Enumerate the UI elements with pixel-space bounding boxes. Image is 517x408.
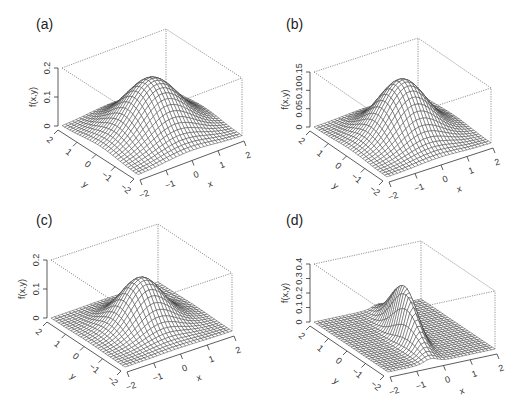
svg-text:2: 2 <box>493 157 501 168</box>
svg-text:−1: −1 <box>412 181 425 194</box>
svg-text:0.10: 0.10 <box>294 82 304 100</box>
svg-text:0.1: 0.1 <box>31 283 41 296</box>
svg-text:−2: −2 <box>119 182 133 196</box>
svg-text:−2: −2 <box>369 379 383 393</box>
svg-text:−1: −1 <box>151 371 164 384</box>
surface-plot: 00.050.100.15f(x,y)−2−1012y−2−1012x <box>259 0 517 204</box>
svg-text:−2: −2 <box>124 380 137 393</box>
svg-text:−1: −1 <box>414 379 427 392</box>
svg-text:0: 0 <box>334 355 344 366</box>
z-axis-label: f(x,y) <box>28 87 38 107</box>
svg-text:0.4: 0.4 <box>294 258 304 271</box>
panel-c: (c) 00.10.2f(x,y)−2−1012y−2−1012x <box>0 204 258 408</box>
svg-text:−1: −1 <box>87 361 101 375</box>
svg-text:0: 0 <box>71 351 81 362</box>
y-axis-label: y <box>331 376 341 387</box>
z-axis-label: f(x,y) <box>280 90 290 110</box>
svg-text:0: 0 <box>294 319 304 324</box>
svg-text:−2: −2 <box>368 184 382 198</box>
z-axis-label: f(x,y) <box>280 283 290 303</box>
svg-text:0.1: 0.1 <box>42 91 52 104</box>
svg-text:0.2: 0.2 <box>294 287 304 300</box>
x-axis-label: x <box>458 385 466 396</box>
svg-text:−2: −2 <box>106 374 120 388</box>
z-axis-label: f(x,y) <box>17 279 27 299</box>
svg-text:2: 2 <box>234 345 242 356</box>
svg-text:0: 0 <box>192 169 200 180</box>
svg-text:0.05: 0.05 <box>294 100 304 118</box>
svg-text:2: 2 <box>497 363 505 374</box>
svg-text:1: 1 <box>315 148 325 159</box>
svg-text:−2: −2 <box>386 190 399 203</box>
panel-a: (a) 00.10.2f(x,y)−2−1012y−2−1012x <box>0 0 258 204</box>
svg-text:0.2: 0.2 <box>42 62 52 75</box>
x-axis-label: x <box>455 183 463 194</box>
panel-d: (d) 00.10.20.30.4f(x,y)−2−1012y−2−1012x <box>259 204 517 408</box>
svg-text:2: 2 <box>34 326 44 337</box>
svg-text:2: 2 <box>244 150 252 161</box>
svg-text:0.3: 0.3 <box>294 272 304 285</box>
svg-text:0: 0 <box>333 160 343 171</box>
svg-text:−2: −2 <box>137 188 150 201</box>
svg-text:1: 1 <box>52 339 62 350</box>
svg-text:0.1: 0.1 <box>294 301 304 314</box>
svg-text:0: 0 <box>294 124 304 129</box>
svg-text:0: 0 <box>441 174 449 185</box>
svg-text:1: 1 <box>207 354 215 365</box>
svg-text:1: 1 <box>218 159 226 170</box>
svg-text:0: 0 <box>443 374 451 385</box>
svg-text:−2: −2 <box>387 385 400 398</box>
svg-text:1: 1 <box>315 343 325 354</box>
svg-text:0: 0 <box>180 363 188 374</box>
x-axis-label: x <box>195 372 203 383</box>
svg-text:−1: −1 <box>163 178 176 191</box>
svg-text:0.2: 0.2 <box>31 254 41 267</box>
svg-text:0: 0 <box>31 315 41 320</box>
svg-text:0: 0 <box>83 159 93 170</box>
panel-b: (b) 00.050.100.15f(x,y)−2−1012y−2−1012x <box>259 0 517 204</box>
y-axis-label: y <box>68 371 78 382</box>
surface-plot: 00.10.20.30.4f(x,y)−2−1012y−2−1012x <box>259 204 517 408</box>
svg-text:1: 1 <box>64 147 74 158</box>
surface-plot: 00.10.2f(x,y)−2−1012y−2−1012x <box>0 0 258 204</box>
x-axis-label: x <box>206 178 214 189</box>
svg-text:2: 2 <box>297 135 307 146</box>
y-axis-label: y <box>331 181 341 192</box>
svg-text:0: 0 <box>42 123 52 128</box>
svg-text:−1: −1 <box>100 169 114 183</box>
svg-text:−1: −1 <box>350 366 364 380</box>
svg-text:2: 2 <box>297 330 307 341</box>
svg-text:1: 1 <box>467 165 475 176</box>
svg-text:1: 1 <box>470 368 478 379</box>
svg-text:2: 2 <box>45 134 55 145</box>
svg-text:−1: −1 <box>350 171 364 185</box>
surface-plot: 00.10.2f(x,y)−2−1012y−2−1012x <box>0 204 258 408</box>
svg-text:0.15: 0.15 <box>294 63 304 81</box>
y-axis-label: y <box>80 179 90 190</box>
